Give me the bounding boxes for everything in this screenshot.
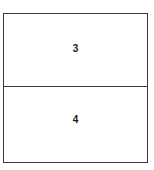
table-box: 3 4: [3, 13, 148, 163]
table-row: 4: [4, 87, 147, 162]
cell-label-bottom: 4: [73, 115, 79, 125]
diagram-canvas: 3 4: [0, 0, 154, 170]
table-row: 3: [4, 14, 147, 87]
cell-label-top: 3: [73, 44, 79, 54]
